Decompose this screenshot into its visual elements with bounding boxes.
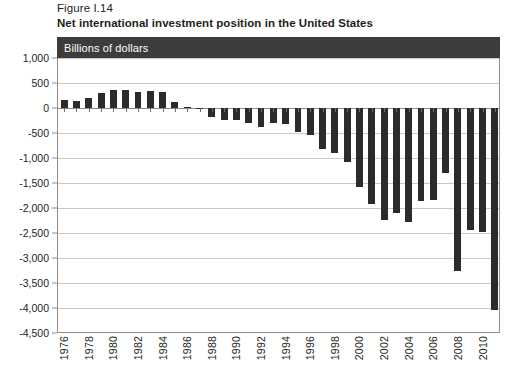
x-tick-mark: [433, 108, 434, 112]
plot-area: [57, 58, 500, 333]
unit-banner-label: Billions of dollars: [57, 42, 148, 54]
x-tick-mark: [89, 108, 90, 112]
x-axis-label: 1976: [58, 336, 70, 360]
y-axis-label: 500: [31, 77, 49, 89]
x-tick-mark: [458, 108, 459, 112]
x-tick-mark: [421, 108, 422, 112]
x-tick-mark: [249, 108, 250, 112]
x-tick-mark: [101, 108, 102, 112]
x-axis-label: 1988: [206, 336, 218, 360]
y-axis-label: -1,000: [19, 152, 49, 164]
x-axis: 1976197819801982198419861988199019921994…: [57, 334, 500, 379]
x-tick-mark: [384, 108, 385, 112]
y-axis-label: -4,000: [19, 302, 49, 314]
x-tick-mark: [372, 108, 373, 112]
x-tick-mark: [224, 108, 225, 112]
figure-title: Net international investment position in…: [57, 17, 373, 29]
x-tick-mark: [347, 108, 348, 112]
x-tick-mark: [138, 108, 139, 112]
x-axis-label: 1992: [255, 336, 267, 360]
x-tick-mark: [298, 108, 299, 112]
x-tick-mark: [64, 108, 65, 112]
unit-banner: Billions of dollars: [57, 37, 500, 58]
x-axis-label: 1984: [157, 336, 169, 360]
x-axis-label: 1982: [132, 336, 144, 360]
x-tick-mark: [310, 108, 311, 112]
x-axis-label: 1986: [181, 336, 193, 360]
x-tick-mark: [200, 108, 201, 112]
x-axis-label: 2004: [403, 336, 415, 360]
x-axis-label: 1998: [329, 336, 341, 360]
x-tick-mark: [163, 108, 164, 112]
figure-container: Figure I.14 Net international investment…: [0, 0, 523, 379]
y-axis-label: -1,500: [19, 177, 49, 189]
x-tick-mark: [76, 108, 77, 112]
y-axis: 1,0005000-500-1,000-1,500-2,000-2,500-3,…: [0, 58, 57, 333]
x-axis-label: 2006: [427, 336, 439, 360]
x-tick-mark: [126, 108, 127, 112]
x-tick-mark: [150, 108, 151, 112]
figure-number: Figure I.14: [57, 2, 113, 14]
x-tick-mark: [495, 108, 496, 112]
x-tick-mark: [187, 108, 188, 112]
y-axis-label: 0: [43, 102, 49, 114]
x-tick-mark: [359, 108, 360, 112]
y-axis-label: -500: [28, 127, 49, 139]
x-tick-mark: [175, 108, 176, 112]
x-tick-mark: [470, 108, 471, 112]
x-tick-mark: [335, 108, 336, 112]
x-axis-label: 1978: [83, 336, 95, 360]
x-tick-mark: [236, 108, 237, 112]
x-axis-label: 1980: [107, 336, 119, 360]
x-tick-mark: [483, 108, 484, 112]
y-axis-label: 1,000: [23, 52, 49, 64]
y-axis-label: -3,000: [19, 252, 49, 264]
x-tick-mark: [409, 108, 410, 112]
x-tick-mark: [113, 108, 114, 112]
x-tick-mark: [286, 108, 287, 112]
x-tick-mark: [446, 108, 447, 112]
x-axis-label: 1996: [304, 336, 316, 360]
x-tick-mark: [261, 108, 262, 112]
x-tick-mark: [273, 108, 274, 112]
x-tick-mark: [323, 108, 324, 112]
x-axis-label: 2002: [378, 336, 390, 360]
x-axis-label: 1994: [280, 336, 292, 360]
y-axis-label: -2,000: [19, 202, 49, 214]
y-axis-label: -4,500: [19, 327, 49, 339]
x-axis-label: 2010: [477, 336, 489, 360]
x-axis-label: 1990: [230, 336, 242, 360]
y-axis-label: -3,500: [19, 277, 49, 289]
y-axis-label: -2,500: [19, 227, 49, 239]
x-tick-mark: [212, 108, 213, 112]
x-axis-label: 2008: [452, 336, 464, 360]
x-tick-marks: [58, 58, 499, 332]
x-tick-mark: [396, 108, 397, 112]
x-axis-label: 2000: [353, 336, 365, 360]
